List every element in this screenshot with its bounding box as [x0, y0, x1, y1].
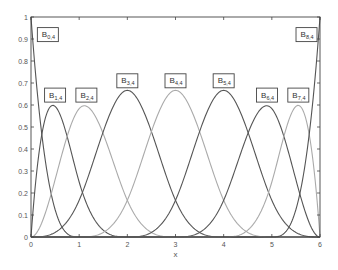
label-4-4: B4,4 [165, 74, 186, 88]
curve-7-4 [31, 105, 320, 237]
svg-text:2,4: 2,4 [86, 95, 94, 101]
basis-curves [31, 17, 320, 237]
bspline-basis-chart: 012345600.10.20.30.40.50.60.70.80.91 B0,… [0, 0, 338, 270]
svg-text:5,4: 5,4 [223, 80, 231, 86]
y-tick-label: 0.1 [18, 212, 28, 219]
x-tick-label: 5 [270, 241, 274, 248]
svg-text:7,4: 7,4 [298, 95, 306, 101]
y-tick-label: 0.5 [18, 124, 28, 131]
curve-6-4 [31, 106, 320, 237]
y-tick-label: 1 [24, 14, 28, 21]
curve-8-4 [31, 17, 320, 237]
svg-text:1,4: 1,4 [55, 95, 63, 101]
y-tick-label: 0.9 [18, 36, 28, 43]
x-tick-label: 3 [174, 241, 178, 248]
y-tick-label: 0.4 [18, 146, 28, 153]
x-axis-label: x [174, 250, 178, 259]
y-tick-label: 0.6 [18, 102, 28, 109]
x-tick-label: 6 [318, 241, 322, 248]
label-3-4: B3,4 [117, 74, 138, 88]
y-tick-label: 0 [24, 234, 28, 241]
svg-text:8,4: 8,4 [306, 34, 314, 40]
y-tick-label: 0.7 [18, 80, 28, 87]
svg-text:4,4: 4,4 [175, 80, 183, 86]
svg-text:0,4: 0,4 [47, 34, 55, 40]
curve-0-4 [31, 17, 320, 237]
label-8-4: B8,4 [296, 28, 317, 42]
x-tick-label: 2 [125, 241, 129, 248]
x-tick-label: 0 [29, 241, 33, 248]
curve-2-4 [31, 106, 320, 237]
label-1-4: B1,4 [45, 88, 66, 102]
svg-text:6,4: 6,4 [267, 95, 275, 101]
svg-text:3,4: 3,4 [127, 80, 135, 86]
x-tick-label: 4 [222, 241, 226, 248]
label-6-4: B6,4 [257, 88, 278, 102]
label-7-4: B7,4 [288, 88, 309, 102]
label-5-4: B5,4 [213, 74, 234, 88]
y-tick-label: 0.3 [18, 168, 28, 175]
plot-frame [31, 17, 320, 237]
curve-1-4 [31, 105, 320, 237]
label-0-4: B0,4 [37, 28, 58, 42]
label-2-4: B2,4 [76, 88, 97, 102]
x-tick-label: 1 [77, 241, 81, 248]
y-tick-label: 0.8 [18, 58, 28, 65]
y-tick-label: 0.2 [18, 190, 28, 197]
axis-ticks: 012345600.10.20.30.40.50.60.70.80.91 [18, 14, 322, 249]
